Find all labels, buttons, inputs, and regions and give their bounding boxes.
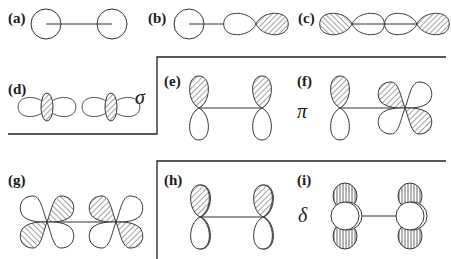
panel-label-a: (a) [8, 11, 26, 26]
panel-c-p-p-overlap [320, 13, 450, 34]
panel-h-d-d-delta-side-overlap [191, 185, 274, 249]
panel-label-b: (b) [148, 11, 166, 26]
panel-label-f: (f) [297, 74, 312, 89]
panel-label-i: (i) [297, 173, 311, 188]
panel-f-p-d-pi-overlap [331, 76, 432, 140]
orbital-overlap-diagram [0, 0, 451, 259]
panel-label-h: (h) [164, 173, 182, 188]
panel-a-s-s-overlap [31, 9, 127, 39]
panel-label-c: (c) [298, 11, 315, 26]
panel-label-g: (g) [8, 173, 26, 188]
panel-d-d-d-sigma-overlap [18, 93, 140, 121]
panel-label-e: (e) [164, 74, 181, 89]
panel-b-s-p-overlap [174, 9, 288, 39]
sigma-symbol: σ [135, 87, 145, 107]
pi-symbol: π [297, 101, 307, 121]
panel-label-d: (d) [8, 82, 26, 97]
panel-e-p-p-pi-overlap [190, 76, 272, 140]
panel-i-d-d-delta-end-overlap [331, 183, 427, 249]
delta-symbol: δ [298, 205, 307, 225]
panel-g-d-d-pi-overlap [20, 196, 143, 248]
